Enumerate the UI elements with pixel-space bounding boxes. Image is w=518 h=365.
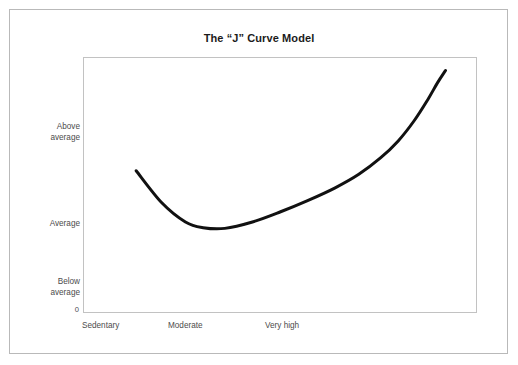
y-axis-label-below-average: Below average xyxy=(0,277,80,298)
chart-title: The “J” Curve Model xyxy=(0,32,518,44)
x-axis-label-very-high: Very high xyxy=(265,321,299,330)
x-axis-label-moderate: Moderate xyxy=(168,321,203,330)
x-axis-label-sedentary: Sedentary xyxy=(82,321,119,330)
plot-area-border xyxy=(83,57,477,313)
y-axis-label-average: Average xyxy=(0,219,80,230)
y-axis-label-above-average: Above average xyxy=(0,122,80,143)
j-curve-figure: The “J” Curve Model Above average Averag… xyxy=(0,0,518,365)
y-axis-origin-label: 0 xyxy=(67,305,79,314)
